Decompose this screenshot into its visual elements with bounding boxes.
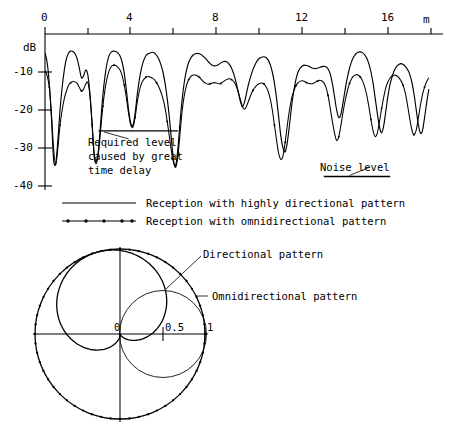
noise-level-label: Noise level: [320, 161, 390, 174]
x-axis-unit-label: m: [423, 13, 430, 26]
y-tick-label-minus20: -20: [13, 103, 33, 116]
required-level-line-3: time delay: [88, 164, 151, 177]
y-tick-label-minus30: -30: [13, 141, 33, 154]
y-axis-label: dB: [23, 41, 36, 54]
x-tick-label-12: 12: [295, 11, 308, 24]
polar-leaders: [166, 256, 208, 296]
polar-tick-label-1: 1: [207, 321, 213, 334]
x-tick-label-4: 4: [126, 11, 133, 24]
x-tick-label-0: 0: [41, 11, 48, 24]
y-tick-label-minus10: -10: [13, 65, 33, 78]
polar-directional-pattern: [57, 250, 167, 350]
polar-label-omnidirectional: Omnidirectional pattern: [212, 290, 357, 302]
cartesian-curves: [0, 51, 429, 167]
polar-tick-label-0p5: 0.5: [165, 321, 184, 334]
y-tick-label-minus40: -40: [13, 179, 33, 192]
directional-pattern-leader: [166, 256, 201, 289]
polar-tick-label-0: 0: [114, 321, 120, 334]
polar-label-directional: Directional pattern: [203, 248, 323, 260]
required-level-line-1: Required level: [88, 136, 177, 149]
figure-root: 0 4 8 12 16 m dB -10 -20 -30 -40 Require…: [0, 0, 451, 439]
required-level-line-2: caused by great: [88, 150, 183, 163]
legend-graphics: [62, 203, 136, 222]
polar-plot: [33, 247, 208, 422]
legend-label-directional: Reception with highly directional patter…: [146, 197, 405, 209]
x-tick-label-16: 16: [381, 11, 394, 24]
x-tick-label-8: 8: [212, 11, 219, 24]
legend-label-omnidirectional: Reception with omnidirectional pattern: [146, 215, 386, 227]
